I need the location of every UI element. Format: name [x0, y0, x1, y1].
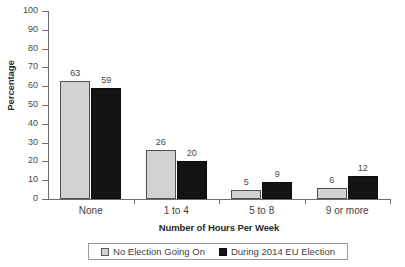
x-axis-category-label: 9 or more — [305, 205, 391, 217]
x-axis-title: Number of Hours Per Week — [48, 222, 390, 233]
bar — [231, 190, 261, 199]
y-axis-tick: 0 — [0, 199, 48, 200]
bar — [317, 188, 347, 199]
bar — [177, 161, 207, 199]
y-axis-tick: 90 — [0, 30, 48, 31]
y-axis-tick: 60 — [0, 86, 48, 87]
y-axis-tick: 30 — [0, 143, 48, 144]
bar-value-label: 12 — [348, 164, 378, 173]
y-axis-tick-label: 50 — [12, 100, 38, 109]
y-axis-tick: 70 — [0, 67, 48, 68]
y-axis-tick: 20 — [0, 161, 48, 162]
y-axis-tick: 100 — [0, 11, 48, 12]
legend-item[interactable]: No Election Going On — [101, 247, 205, 257]
legend-label: During 2014 EU Election — [231, 247, 335, 257]
y-axis-tick: 80 — [0, 49, 48, 50]
y-axis-tick-label: 100 — [12, 6, 38, 15]
bar-value-label: 9 — [262, 170, 292, 179]
bar-chart: Percentage 1009080706050403020100 635926… — [0, 0, 405, 267]
legend-swatch-icon — [219, 248, 227, 256]
legend-label: No Election Going On — [113, 247, 205, 257]
bar — [91, 88, 121, 199]
y-axis-tick: 10 — [0, 180, 48, 181]
bar — [146, 150, 176, 199]
bar-value-label: 6 — [317, 176, 347, 185]
chart-legend: No Election Going OnDuring 2014 EU Elect… — [88, 243, 348, 260]
bar — [60, 81, 90, 199]
bar-value-label: 20 — [177, 149, 207, 158]
y-axis-tick: 50 — [0, 105, 48, 106]
x-axis-tick-mark — [219, 199, 220, 204]
x-axis-category-label: 1 to 4 — [134, 205, 220, 217]
y-axis-ticks: 1009080706050403020100 — [0, 0, 48, 267]
bar — [348, 176, 378, 199]
legend-item[interactable]: During 2014 EU Election — [219, 247, 335, 257]
bar — [262, 182, 292, 199]
y-axis-tick-label: 20 — [12, 156, 38, 165]
x-axis-category-label: 5 to 8 — [219, 205, 305, 217]
x-axis-tick-mark — [390, 199, 391, 204]
x-axis-tick-mark — [305, 199, 306, 204]
bars-layer — [48, 11, 390, 199]
y-axis-tick-label: 90 — [12, 25, 38, 34]
bar-value-label: 5 — [231, 178, 261, 187]
y-axis-tick-label: 80 — [12, 44, 38, 53]
y-axis-tick: 40 — [0, 124, 48, 125]
legend-swatch-icon — [101, 248, 109, 256]
bar-value-label: 26 — [146, 138, 176, 147]
bar-value-label: 63 — [60, 69, 90, 78]
y-axis-tick-label: 0 — [12, 194, 38, 203]
y-axis-tick-label: 60 — [12, 81, 38, 90]
x-axis-tick-mark — [134, 199, 135, 204]
y-axis-tick-label: 30 — [12, 138, 38, 147]
bar-value-label: 59 — [91, 76, 121, 85]
y-axis-tick-label: 40 — [12, 119, 38, 128]
y-axis-tick-label: 10 — [12, 175, 38, 184]
x-axis-category-label: None — [48, 205, 134, 217]
y-axis-tick-label: 70 — [12, 62, 38, 71]
